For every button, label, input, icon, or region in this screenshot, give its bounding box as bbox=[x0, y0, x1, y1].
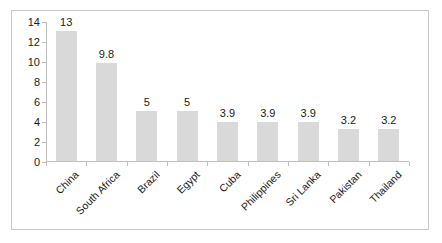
x-category-label: Pakistan bbox=[327, 169, 363, 205]
x-category-label: China bbox=[54, 169, 81, 196]
y-axis-line bbox=[46, 22, 47, 162]
bar-value-label: 3.9 bbox=[301, 108, 316, 119]
bar bbox=[56, 31, 77, 161]
y-tick-mark bbox=[42, 22, 46, 23]
y-tick-label: 8 bbox=[34, 77, 40, 88]
bar-value-label: 5 bbox=[184, 97, 190, 108]
bar bbox=[177, 111, 198, 161]
x-tick-mark bbox=[369, 162, 370, 166]
y-tick-label: 12 bbox=[28, 37, 40, 48]
y-tick-mark bbox=[42, 102, 46, 103]
y-tick-label: 2 bbox=[34, 137, 40, 148]
bar-value-label: 3.9 bbox=[260, 108, 275, 119]
y-tick-label: 6 bbox=[34, 97, 40, 108]
x-category-label: Brazil bbox=[135, 169, 161, 195]
y-tick-label: 10 bbox=[28, 57, 40, 68]
x-axis-line bbox=[46, 161, 409, 162]
x-category-label: Thailand bbox=[367, 169, 403, 205]
y-tick-mark bbox=[42, 42, 46, 43]
bar-value-label: 5 bbox=[144, 97, 150, 108]
x-category-label: Cuba bbox=[217, 169, 242, 194]
bar bbox=[136, 111, 157, 161]
x-tick-mark bbox=[288, 162, 289, 166]
y-tick-label: 0 bbox=[34, 157, 40, 168]
bar-value-label: 3.2 bbox=[341, 115, 356, 126]
x-category-label: Philippines bbox=[239, 169, 282, 212]
bar-value-label: 9.8 bbox=[99, 49, 114, 60]
y-tick-mark bbox=[42, 62, 46, 63]
x-tick-mark bbox=[167, 162, 168, 166]
chart-container: 02468101214 139.8553.93.93.93.23.2 China… bbox=[11, 10, 429, 230]
y-tick-mark bbox=[42, 122, 46, 123]
x-tick-mark bbox=[328, 162, 329, 166]
x-category-label: Sri Lanka bbox=[284, 169, 323, 208]
bar-value-label: 13 bbox=[60, 17, 72, 28]
bar bbox=[378, 129, 399, 161]
bar-value-label: 3.2 bbox=[381, 115, 396, 126]
y-tick-mark bbox=[42, 142, 46, 143]
x-tick-mark bbox=[46, 162, 47, 166]
plot-area: 02468101214 139.8553.93.93.93.23.2 China… bbox=[46, 22, 409, 162]
y-tick-label: 4 bbox=[34, 117, 40, 128]
bar bbox=[298, 122, 319, 161]
x-tick-mark bbox=[86, 162, 87, 166]
bar bbox=[257, 122, 278, 161]
bar-value-label: 3.9 bbox=[220, 108, 235, 119]
x-tick-mark bbox=[409, 162, 410, 166]
x-tick-mark bbox=[127, 162, 128, 166]
bar bbox=[217, 122, 238, 161]
x-category-label: Egypt bbox=[175, 169, 201, 195]
bar bbox=[338, 129, 359, 161]
bar bbox=[96, 63, 117, 161]
y-tick-label: 14 bbox=[28, 17, 40, 28]
x-tick-mark bbox=[248, 162, 249, 166]
x-tick-mark bbox=[207, 162, 208, 166]
y-tick-mark bbox=[42, 82, 46, 83]
